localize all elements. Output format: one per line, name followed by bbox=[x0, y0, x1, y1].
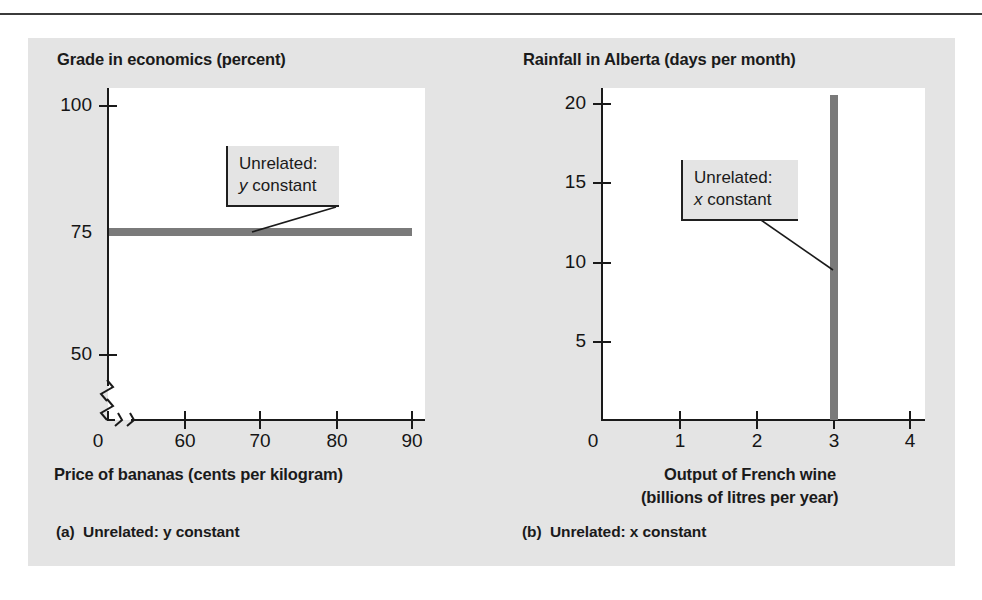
chart-a-x-tick-label-0: 0 bbox=[78, 430, 118, 452]
chart-a-caption: (a) Unrelated: y constant bbox=[56, 523, 239, 541]
chart-b-y-tick-label-10: 10 bbox=[522, 251, 586, 273]
chart-b-annotation-callout: Unrelated: x constant bbox=[681, 160, 798, 221]
chart-b-y-tick-15 bbox=[593, 182, 611, 184]
chart-b-x-tick-4 bbox=[909, 411, 911, 429]
chart-a-x-axis-title: Price of bananas (cents per kilogram) bbox=[54, 465, 343, 484]
chart-a-x-tick-label-70: 70 bbox=[240, 430, 280, 452]
chart-a-y-axis bbox=[107, 88, 109, 386]
chart-b-y-axis bbox=[601, 88, 603, 421]
chart-a-y-tick-label-100: 100 bbox=[28, 94, 92, 116]
chart-b-caption: (b) Unrelated: x constant bbox=[522, 523, 706, 541]
chart-a-plot-area bbox=[108, 88, 425, 420]
chart-a-caption-text: Unrelated: y constant bbox=[83, 523, 239, 540]
chart-b-y-tick-label-20: 20 bbox=[522, 92, 586, 114]
chart-a-x-tick-label-90: 90 bbox=[392, 430, 432, 452]
chart-b-x-tick-2 bbox=[756, 411, 758, 429]
chart-a-annotation-line2-rest: constant bbox=[248, 176, 317, 195]
chart-b-x-tick-label-4: 4 bbox=[890, 430, 930, 452]
chart-a-annotation-callout: Unrelated: y constant bbox=[226, 146, 339, 207]
chart-b-data-line-x-constant bbox=[830, 95, 838, 420]
chart-b-y-tick-label-5: 5 bbox=[522, 330, 586, 352]
chart-a-caption-prefix: (a) bbox=[56, 523, 75, 540]
chart-a-y-tick-50 bbox=[99, 354, 117, 356]
chart-b-x-tick-label-2: 2 bbox=[737, 430, 777, 452]
chart-b-y-tick-20 bbox=[593, 103, 611, 105]
chart-b-caption-prefix: (b) bbox=[522, 523, 542, 540]
chart-b-title: Rainfall in Alberta (days per month) bbox=[523, 50, 796, 69]
chart-b-annotation-var: x bbox=[694, 190, 703, 209]
chart-b-caption-text: Unrelated: x constant bbox=[550, 523, 706, 540]
chart-b-x-axis-title-line2: (billions of litres per year) bbox=[641, 488, 838, 507]
chart-a-x-tick-90 bbox=[411, 411, 413, 429]
chart-b-y-tick-label-15: 15 bbox=[522, 171, 586, 193]
chart-a-title: Grade in economics (percent) bbox=[57, 50, 286, 69]
chart-a-y-tick-label-50: 50 bbox=[28, 343, 92, 365]
top-divider-rule bbox=[0, 13, 982, 15]
chart-b-annotation-line2-rest: constant bbox=[703, 190, 772, 209]
chart-a-data-line-y-constant bbox=[109, 228, 412, 236]
chart-b-plot-area bbox=[603, 88, 925, 420]
chart-a-x-tick-label-60: 60 bbox=[165, 430, 205, 452]
chart-a-x-tick-80 bbox=[336, 411, 338, 429]
chart-a-annotation-line2: y constant bbox=[239, 175, 329, 197]
chart-a-y-tick-100 bbox=[99, 105, 117, 107]
chart-b-y-tick-5 bbox=[593, 341, 611, 343]
chart-b-y-tick-10 bbox=[593, 262, 611, 264]
chart-a-x-axis-break-icon bbox=[112, 406, 138, 432]
chart-b-x-tick-label-1: 1 bbox=[660, 430, 700, 452]
chart-b-x-axis bbox=[601, 419, 925, 421]
chart-b-x-tick-1 bbox=[679, 411, 681, 429]
chart-a-x-tick-label-80: 80 bbox=[317, 430, 357, 452]
chart-a-annotation-var: y bbox=[239, 176, 248, 195]
figure-panel: Grade in economics (percent) bbox=[28, 38, 955, 566]
chart-b-x-axis-title-line1: Output of French wine bbox=[664, 465, 836, 484]
figure-container: Grade in economics (percent) bbox=[0, 0, 982, 600]
chart-b-x-tick-label-0: 0 bbox=[573, 430, 613, 452]
chart-a-x-tick-60 bbox=[184, 411, 186, 429]
chart-a-x-tick-70 bbox=[259, 411, 261, 429]
chart-a-y-tick-label-75: 75 bbox=[28, 221, 92, 243]
chart-b-x-tick-label-3: 3 bbox=[814, 430, 854, 452]
chart-a-annotation-line1: Unrelated: bbox=[239, 153, 329, 175]
chart-b-annotation-line1: Unrelated: bbox=[694, 167, 788, 189]
chart-a-x-axis bbox=[131, 419, 425, 421]
chart-b-annotation-line2: x constant bbox=[694, 189, 788, 211]
